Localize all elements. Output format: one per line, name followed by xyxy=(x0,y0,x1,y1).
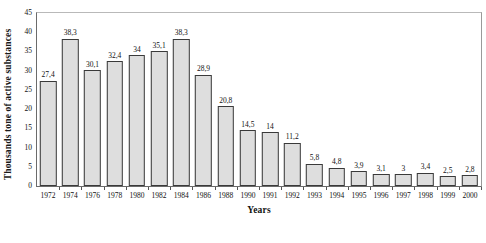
bar-slot: 5,8 xyxy=(303,13,325,186)
x-tick-label: 1980 xyxy=(129,191,144,201)
bar-slot: 34 xyxy=(126,13,148,186)
bar[interactable] xyxy=(40,81,56,186)
bar-slot: 3,9 xyxy=(348,13,370,186)
x-tick-mark xyxy=(170,187,171,190)
bar-chart: Thousands tone of active substances 0510… xyxy=(0,0,486,243)
x-tick-mark xyxy=(326,187,327,190)
bar-value-label: 2,5 xyxy=(443,166,452,175)
x-tick-label: 1988 xyxy=(218,191,233,201)
x-axis-title: Years xyxy=(36,205,482,215)
x-tick-label: 1974 xyxy=(63,191,78,201)
bar[interactable] xyxy=(129,55,145,186)
x-tick-mark xyxy=(104,187,105,190)
y-tick-label: 15 xyxy=(16,124,32,132)
x-tick-mark xyxy=(481,187,482,190)
bar[interactable] xyxy=(151,51,167,186)
x-tick-mark xyxy=(148,187,149,190)
x-tick-label: 1997 xyxy=(396,191,411,201)
bar[interactable] xyxy=(328,168,344,186)
bar-value-label: 38,3 xyxy=(175,28,188,37)
x-tick-label: 1990 xyxy=(240,191,255,201)
bar-slot: 11,2 xyxy=(281,13,303,186)
x-tick-mark xyxy=(126,187,127,190)
x-tick-label: 1972 xyxy=(41,191,56,201)
x-tick-mark xyxy=(215,187,216,190)
bar-value-label: 14,5 xyxy=(241,120,254,129)
bar-slot: 20,8 xyxy=(215,13,237,186)
bar[interactable] xyxy=(351,171,367,186)
bar[interactable] xyxy=(217,106,233,186)
bar-slot: 27,4 xyxy=(37,13,59,186)
bar-slot: 3,4 xyxy=(414,13,436,186)
bar-value-label: 5,8 xyxy=(310,153,319,162)
y-axis-title: Thousands tone of active substances xyxy=(1,4,15,205)
bar-slot: 2,5 xyxy=(437,13,459,186)
bar[interactable] xyxy=(62,39,78,186)
bar-value-label: 34 xyxy=(133,45,141,54)
x-tick-mark xyxy=(303,187,304,190)
bar[interactable] xyxy=(284,143,300,186)
bar-value-label: 14 xyxy=(266,122,274,131)
x-tick-mark xyxy=(281,187,282,190)
x-tick-label: 2000 xyxy=(462,191,477,201)
bar[interactable] xyxy=(195,75,211,186)
bar[interactable] xyxy=(240,130,256,186)
x-tick-label: 1996 xyxy=(374,191,389,201)
bar[interactable] xyxy=(462,175,478,186)
x-axis-tick-labels: 1972197419761978198019821984198619881990… xyxy=(37,191,481,203)
x-tick-label: 1991 xyxy=(263,191,278,201)
x-tick-label: 1978 xyxy=(107,191,122,201)
bar-value-label: 20,8 xyxy=(219,96,232,105)
y-tick-label: 45 xyxy=(16,9,32,17)
x-tick-mark xyxy=(370,187,371,190)
bar-value-label: 32,4 xyxy=(108,51,121,60)
x-tick-label: 1976 xyxy=(85,191,100,201)
bar[interactable] xyxy=(173,39,189,186)
bar[interactable] xyxy=(106,61,122,186)
x-tick-label: 1982 xyxy=(152,191,167,201)
x-tick-mark xyxy=(459,187,460,190)
bar-slot: 14 xyxy=(259,13,281,186)
bar[interactable] xyxy=(306,164,322,186)
bar-slot: 14,5 xyxy=(237,13,259,186)
bar[interactable] xyxy=(395,174,411,186)
x-tick-mark xyxy=(259,187,260,190)
bar-slot: 28,9 xyxy=(192,13,214,186)
bar[interactable] xyxy=(262,132,278,186)
x-tick-mark xyxy=(348,187,349,190)
y-tick-label: 0 xyxy=(16,182,32,190)
bar[interactable] xyxy=(373,174,389,186)
bar-slot: 3,1 xyxy=(370,13,392,186)
x-tick-label: 1998 xyxy=(418,191,433,201)
bar[interactable] xyxy=(84,70,100,186)
bar-value-label: 2,8 xyxy=(465,165,474,174)
bar-slot: 38,3 xyxy=(170,13,192,186)
x-tick-label: 1986 xyxy=(196,191,211,201)
x-tick-mark xyxy=(414,187,415,190)
y-tick-label: 20 xyxy=(16,105,32,113)
bars-layer: 27,438,330,132,43435,138,328,920,814,514… xyxy=(37,13,481,186)
bar-value-label: 35,1 xyxy=(153,41,166,50)
x-tick-label: 1999 xyxy=(440,191,455,201)
y-axis-tick-labels: 051015202530354045 xyxy=(16,12,32,187)
y-tick-label: 30 xyxy=(16,67,32,75)
bar[interactable] xyxy=(439,176,455,186)
x-tick-mark xyxy=(192,187,193,190)
bar-value-label: 3,4 xyxy=(421,162,430,171)
bar-value-label: 38,3 xyxy=(64,28,77,37)
bar-value-label: 3,9 xyxy=(354,161,363,170)
bar-value-label: 3 xyxy=(401,164,405,173)
bar-value-label: 27,4 xyxy=(42,70,55,79)
x-tick-label: 1993 xyxy=(307,191,322,201)
bar[interactable] xyxy=(417,173,433,186)
bar-slot: 4,8 xyxy=(326,13,348,186)
bar-slot: 3 xyxy=(392,13,414,186)
x-tick-mark xyxy=(81,187,82,190)
bar-value-label: 11,2 xyxy=(286,132,299,141)
x-tick-mark xyxy=(237,187,238,190)
x-tick-label: 1984 xyxy=(174,191,189,201)
bar-slot: 30,1 xyxy=(81,13,103,186)
y-tick-label: 35 xyxy=(16,47,32,55)
y-tick-label: 5 xyxy=(16,163,32,171)
bar-slot: 32,4 xyxy=(104,13,126,186)
